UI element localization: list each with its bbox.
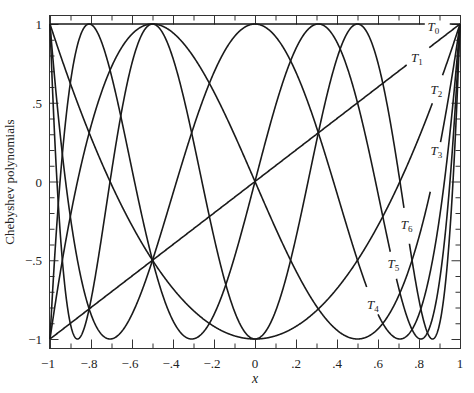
label-t6: T6 [401, 217, 413, 234]
label-t4: T4 [367, 297, 379, 314]
y-tick-label: 0 [36, 175, 43, 190]
y-tick-label: −1 [28, 332, 42, 347]
polynomial-curves [50, 24, 460, 339]
x-tick-label: −.8 [80, 356, 97, 371]
label-t5: T5 [388, 256, 400, 273]
x-tick-label: .2 [291, 356, 301, 371]
label-t0: T0 [427, 19, 439, 36]
y-tick-label: 1 [36, 17, 43, 32]
y-tick-labels: 1.50−.5−1 [25, 17, 42, 347]
label-t2: T2 [431, 82, 443, 99]
x-tick-label: .4 [332, 356, 342, 371]
x-tick-label: 1 [457, 356, 464, 371]
x-tick-label: .8 [414, 356, 424, 371]
x-tick-label: .6 [373, 356, 383, 371]
y-axis-title: Chebyshev polynomials [2, 119, 17, 244]
x-tick-label: −.6 [121, 356, 139, 371]
y-tick-label: −.5 [25, 253, 42, 268]
x-tick-label: −.2 [203, 356, 220, 371]
chebyshev-chart: −1−.8−.6−.4−.20.2.4.6.81 1.50−.5−1 T0T1T… [0, 0, 474, 393]
label-t1: T1 [411, 50, 423, 67]
x-tick-label: 0 [252, 356, 259, 371]
x-axis-title: x [251, 371, 259, 386]
x-tick-label: −.4 [162, 356, 180, 371]
x-tick-labels: −1−.8−.6−.4−.20.2.4.6.81 [41, 356, 463, 371]
y-tick-label: .5 [32, 96, 42, 111]
label-t3: T3 [431, 143, 443, 160]
x-tick-label: −1 [41, 356, 55, 371]
